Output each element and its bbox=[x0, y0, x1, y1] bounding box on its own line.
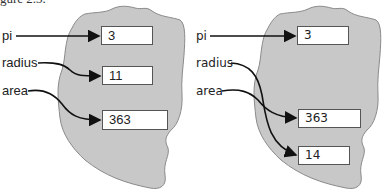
value-box-pi: 3 bbox=[297, 26, 349, 45]
value-box-area: 363 bbox=[102, 110, 168, 130]
value-box-radius: 14 bbox=[298, 146, 350, 165]
variable-label-pi: pi bbox=[2, 29, 12, 43]
variable-label-pi: pi bbox=[196, 29, 207, 43]
value-box-radius: 11 bbox=[102, 66, 153, 85]
variable-label-area: area bbox=[2, 84, 28, 98]
variable-label-radius: radius bbox=[196, 56, 233, 70]
value-box-area: 363 bbox=[298, 109, 361, 128]
variable-label-area: area bbox=[196, 84, 223, 98]
variable-label-radius: radius bbox=[2, 56, 37, 70]
value-box-pi: 3 bbox=[101, 26, 153, 45]
